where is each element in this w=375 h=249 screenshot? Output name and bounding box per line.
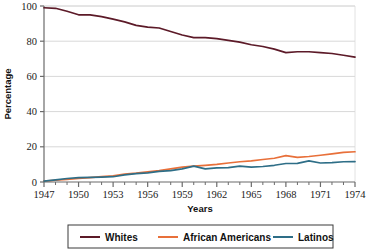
y-axis <box>40 6 44 182</box>
y-axis-tick-label: 0 <box>32 177 37 188</box>
chart-legend: WhitesAfrican AmericansLatinos <box>68 225 334 248</box>
x-axis <box>44 182 355 187</box>
legend-label: Latinos <box>298 232 334 243</box>
line-chart: 020406080100 194719501953195619591962196… <box>0 0 375 249</box>
x-axis-tick-label: 1968 <box>275 189 296 200</box>
x-axis-tick-label: 1959 <box>172 189 193 200</box>
legend-label: African Americans <box>183 232 271 243</box>
x-axis-tick-label: 1953 <box>103 189 124 200</box>
y-axis-tick-label: 20 <box>27 141 38 152</box>
plot-area-background <box>44 6 355 182</box>
x-axis-title: Years <box>187 203 212 214</box>
y-axis-tick-label: 40 <box>27 106 38 117</box>
x-axis-tick-label: 1965 <box>241 189 262 200</box>
y-axis-tick-label: 100 <box>21 1 37 12</box>
x-axis-tick-label: 1947 <box>34 189 55 200</box>
y-axis-title: Percentage <box>2 68 13 119</box>
y-axis-tick-label: 60 <box>27 71 38 82</box>
x-axis-tick-label: 1950 <box>68 189 89 200</box>
legend-label: Whites <box>105 232 138 243</box>
x-axis-tick-label: 1956 <box>137 189 158 200</box>
x-axis-tick-label: 1971 <box>310 189 331 200</box>
y-axis-tick-label: 80 <box>27 36 38 47</box>
x-axis-tick-label: 1974 <box>345 189 367 200</box>
x-axis-tick-label: 1962 <box>206 189 227 200</box>
y-axis-tick-labels: 020406080100 <box>21 1 37 188</box>
x-axis-tick-labels: 1947195019531956195919621965196819711974 <box>34 189 367 200</box>
chart-canvas: 020406080100 194719501953195619591962196… <box>0 0 375 249</box>
